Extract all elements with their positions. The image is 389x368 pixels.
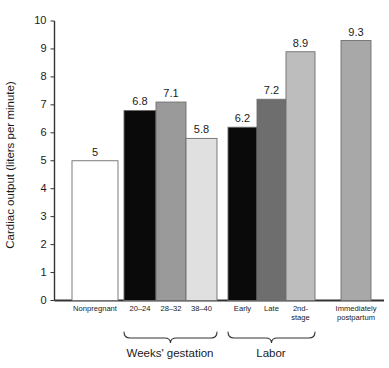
category-label-weeks-20-24: 20–24: [129, 304, 150, 313]
y-tick-label: 0: [40, 294, 46, 306]
category-label-nonpregnant: Nonpregnant: [73, 304, 118, 313]
chart-svg: Cardiac output (liters per minute) 10987…: [0, 0, 389, 368]
labor-brace-icon: [228, 332, 315, 343]
labor-group-label: Labor: [256, 347, 286, 359]
category-label-labor-late: Late: [264, 304, 279, 313]
category-label-immediately-postpartum-line2: postpartum: [337, 313, 375, 322]
bar-weeks-20-24[interactable]: [124, 110, 156, 300]
category-label-labor-2nd-stage-line2: stage: [291, 313, 310, 322]
bar-value-weeks-20-24: 6.8: [132, 95, 147, 107]
bar-value-nonpregnant: 5: [92, 146, 98, 158]
category-labels: Nonpregnant20–2428–3238–40EarlyLate2nd-s…: [73, 304, 377, 322]
category-label-labor-early: Early: [234, 304, 252, 313]
y-tick-label: 1: [40, 266, 46, 278]
bar-nonpregnant[interactable]: [72, 161, 118, 301]
bars-layer: [72, 41, 371, 301]
cardiac-output-bar-chart: Cardiac output (liters per minute) 10987…: [0, 0, 389, 368]
bar-labor-2nd-stage[interactable]: [286, 52, 315, 301]
group-bracket-gestation: Weeks' gestation: [124, 332, 217, 359]
gestation-group-label: Weeks' gestation: [126, 347, 213, 359]
y-tick-label: 8: [40, 70, 46, 82]
y-tick-label: 4: [40, 182, 46, 194]
bar-weeks-38-40[interactable]: [186, 138, 217, 300]
y-tick-label: 10: [34, 14, 46, 26]
bar-value-immediately-postpartum: 9.3: [348, 26, 363, 38]
bar-labor-late[interactable]: [257, 99, 286, 300]
bar-value-labor-early: 6.2: [235, 112, 250, 124]
y-tick-label: 6: [40, 126, 46, 138]
category-label-labor-2nd-stage: 2nd-: [293, 304, 309, 313]
bar-value-labor-2nd-stage: 8.9: [293, 37, 308, 49]
bar-immediately-postpartum[interactable]: [341, 41, 371, 301]
y-axis-title-text: Cardiac output (liters per minute): [4, 81, 16, 249]
gestation-brace-icon: [124, 332, 217, 343]
y-tick-label: 7: [40, 98, 46, 110]
category-label-immediately-postpartum: Immediately: [336, 304, 377, 313]
y-axis-title: Cardiac output (liters per minute): [4, 81, 16, 249]
bar-weeks-28-32[interactable]: [156, 102, 186, 300]
y-axis-ticks: 109876543210: [34, 14, 54, 306]
y-tick-label: 3: [40, 210, 46, 222]
category-label-weeks-28-32: 28–32: [160, 304, 181, 313]
y-tick-label: 9: [40, 42, 46, 54]
bar-labor-early[interactable]: [228, 127, 257, 300]
y-tick-label: 5: [40, 154, 46, 166]
bar-value-weeks-28-32: 7.1: [163, 87, 178, 99]
bar-value-labor-late: 7.2: [264, 84, 279, 96]
bar-value-weeks-38-40: 5.8: [194, 123, 209, 135]
group-bracket-labor: Labor: [228, 332, 315, 359]
y-tick-label: 2: [40, 238, 46, 250]
category-label-weeks-38-40: 38–40: [191, 304, 212, 313]
